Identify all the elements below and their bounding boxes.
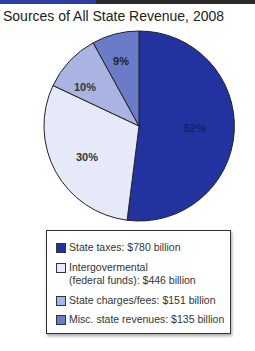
legend-item-misc: Misc. state revenues: $135 billion <box>56 313 224 326</box>
legend-swatch-state-taxes <box>56 243 66 253</box>
chart-legend: State taxes: $780 billion Intergoverment… <box>46 230 231 334</box>
legend-swatch-charges-fees <box>56 296 66 306</box>
slice-label-intergovernmental: 30% <box>76 151 98 163</box>
legend-label: Misc. state revenues: $135 billion <box>69 313 224 326</box>
slice-label-charges-fees: 10% <box>74 81 96 93</box>
legend-item-intergovernmental: Intergovermental (federal funds): $446 b… <box>56 261 196 287</box>
slice-label-state-taxes: 52% <box>184 122 206 134</box>
legend-label: Intergovermental <box>69 261 196 274</box>
legend-label: (federal funds): $446 billion <box>69 274 196 287</box>
legend-label: State charges/fees: $151 billion <box>69 294 216 307</box>
slice-state-taxes <box>127 31 234 221</box>
legend-label: State taxes: $780 billion <box>69 241 181 254</box>
legend-item-charges-fees: State charges/fees: $151 billion <box>56 294 216 307</box>
legend-swatch-misc <box>56 315 66 325</box>
slice-label-misc: 9% <box>113 55 129 67</box>
legend-item-state-taxes: State taxes: $780 billion <box>56 241 181 254</box>
legend-swatch-intergovernmental <box>56 263 66 273</box>
